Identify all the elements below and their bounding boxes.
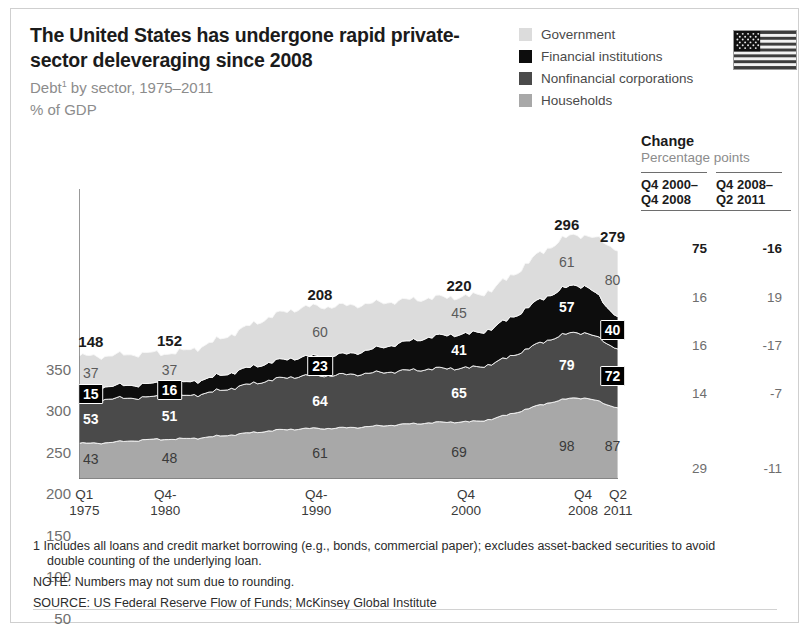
legend-swatch-icon: [519, 28, 532, 41]
chart-legend: GovernmentFinancial institutionsNonfinan…: [519, 23, 693, 111]
rule: [716, 172, 782, 173]
change-table: Change Percentage points Q4 2000– Q4 200…: [641, 133, 791, 211]
data-label: 64: [312, 393, 328, 409]
data-label: 53: [83, 411, 99, 427]
legend-label: Households: [541, 93, 612, 108]
legend-item-government: Government: [519, 23, 693, 45]
data-label: 79: [559, 357, 575, 373]
data-label: 69: [451, 444, 467, 460]
data-label: 61: [559, 254, 575, 270]
change-col-1-line1: Q4 2000–: [641, 177, 716, 192]
change-col-1-line2: Q4 2008: [641, 192, 716, 207]
page-title: The United States has undergone rapid pr…: [30, 23, 490, 73]
data-label: 220: [446, 276, 471, 293]
data-label: 37: [83, 365, 99, 381]
x-tick-label: Q42000: [451, 487, 481, 519]
x-tick-label: Q4-1980: [150, 487, 180, 519]
change-value-col1: 29: [641, 461, 707, 476]
y-tick-label: 200: [23, 485, 71, 502]
data-label: 51: [162, 408, 178, 424]
data-label: 15: [78, 384, 104, 404]
footnote-1-line1: 1 Includes all loans and credit market b…: [33, 539, 773, 554]
change-row: 16-17: [641, 338, 791, 353]
legend-label: Government: [541, 27, 615, 42]
rule: [641, 172, 707, 173]
change-row: 29-11: [641, 461, 791, 476]
data-label: 80: [605, 272, 621, 288]
change-row: 1619: [641, 290, 791, 305]
change-table-subtitle: Percentage points: [641, 150, 791, 165]
change-row: 75-16: [641, 241, 791, 256]
x-tick-label: Q11975: [69, 487, 99, 519]
legend-item-households: Households: [519, 89, 693, 111]
data-label: 23: [307, 356, 333, 376]
legend-item-financial-institutions: Financial institutions: [519, 45, 693, 67]
legend-item-nonfinancial-corporations: Nonfinancial corporations: [519, 67, 693, 89]
legend-label: Financial institutions: [541, 49, 663, 64]
chart-card: The United States has undergone rapid pr…: [10, 8, 799, 623]
legend-swatch-icon: [519, 50, 532, 63]
data-label: 65: [451, 385, 467, 401]
data-label: 40: [600, 320, 626, 340]
chart-units-label: % of GDP: [30, 101, 97, 118]
x-tick-line1: Q4: [451, 487, 481, 503]
data-label: 148: [78, 333, 103, 350]
change-row: 14-7: [641, 386, 791, 401]
x-tick-line2: 2011: [603, 503, 632, 519]
data-label: 41: [451, 342, 467, 358]
data-label: 87: [605, 438, 621, 454]
data-label: 296: [554, 215, 579, 232]
x-tick-line2: 2008: [568, 503, 598, 519]
x-tick-line1: Q4: [568, 487, 598, 503]
y-tick-label: 300: [23, 402, 71, 419]
stacked-area-chart: 1481522082202962793737604561801516234157…: [79, 189, 618, 479]
change-value-col1: 75: [641, 241, 707, 256]
bottom-divider: [33, 609, 777, 610]
y-tick-label: 250: [23, 443, 71, 460]
subtitle-post: by sector, 1975–2011: [67, 79, 214, 96]
data-label: 43: [83, 451, 99, 467]
legend-swatch-icon: [519, 94, 532, 107]
data-label: 48: [162, 450, 178, 466]
change-value-col2: -7: [716, 386, 782, 401]
change-col-1-header: Q4 2000– Q4 2008: [641, 172, 716, 207]
x-tick-label: Q22011: [603, 487, 632, 519]
footnotes: 1 Includes all loans and credit market b…: [33, 539, 773, 611]
change-value-col1: 16: [641, 338, 707, 353]
x-tick-line1: Q4-: [150, 487, 180, 503]
rule: [641, 210, 716, 211]
x-tick-line2: 1980: [150, 503, 180, 519]
data-label: 57: [559, 299, 575, 315]
change-value-col2: -11: [716, 461, 782, 476]
us-flag-icon: [733, 30, 797, 70]
x-tick-line2: 2000: [451, 503, 481, 519]
data-label: 208: [307, 286, 332, 303]
change-value-col2: -16: [716, 241, 782, 256]
x-tick-label: Q42008: [568, 487, 598, 519]
data-label: 45: [451, 305, 467, 321]
note-line: NOTE: Numbers may not sum due to roundin…: [33, 575, 773, 590]
x-tick-line1: Q2: [603, 487, 632, 503]
data-label: 152: [157, 332, 182, 349]
x-tick-line2: 1990: [301, 503, 331, 519]
change-col-2-header: Q4 2008– Q2 2011: [716, 172, 791, 207]
data-label: 61: [312, 445, 328, 461]
subtitle-pre: Debt: [30, 79, 62, 96]
x-tick-line1: Q4-: [301, 487, 331, 503]
change-col-2-line2: Q2 2011: [716, 192, 791, 207]
change-col-2-line1: Q4 2008–: [716, 177, 791, 192]
rule: [716, 210, 791, 211]
data-label: 279: [600, 227, 625, 244]
legend-label: Nonfinancial corporations: [541, 71, 693, 86]
x-tick-label: Q4-1990: [301, 487, 331, 519]
data-label: 60: [312, 324, 328, 340]
footnote-1-line2: double counting of the underlying loan.: [47, 554, 773, 569]
data-label: 37: [162, 362, 178, 378]
legend-swatch-icon: [519, 72, 532, 85]
chart-subtitle: Debt1 by sector, 1975–2011: [30, 79, 213, 96]
data-label: 72: [600, 366, 626, 386]
change-value-col1: 16: [641, 290, 707, 305]
x-tick-line1: Q1: [69, 487, 99, 503]
change-value-col2: -17: [716, 338, 782, 353]
change-value-col1: 14: [641, 386, 707, 401]
